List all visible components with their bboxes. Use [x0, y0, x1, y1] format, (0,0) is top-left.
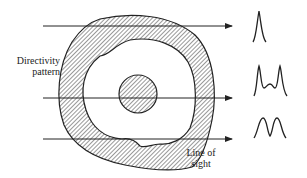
- directivity-pattern-label: Directivity pattern: [0, 55, 60, 77]
- signal-single-peak-icon: [253, 11, 266, 42]
- diagram-canvas: [0, 0, 307, 178]
- central-source-disk: [119, 75, 157, 113]
- directivity-label-line1: Directivity: [0, 55, 60, 66]
- signal-triple-peak-icon: [254, 66, 287, 96]
- signal-double-peak-icon: [254, 118, 286, 138]
- line-of-sight-label-line2: sight: [183, 158, 219, 169]
- line-of-sight-label-line1: Line of: [183, 147, 219, 158]
- directivity-label-line2: pattern: [0, 66, 60, 77]
- line-of-sight-label: Line of sight: [183, 147, 219, 169]
